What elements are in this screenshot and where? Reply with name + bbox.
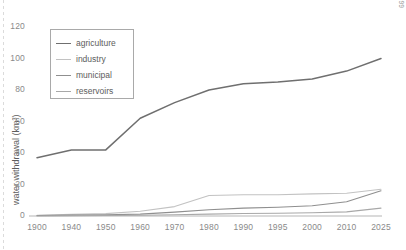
y-axis-title: water withdrawal (km³) [11, 114, 21, 205]
legend-line-swatch-agriculture [56, 43, 71, 44]
water-withdrawal-chart-figure: water withdrawal (km³) Source: Shikloman… [0, 0, 406, 250]
legend-line-swatch-reservoirs [56, 91, 71, 92]
legend-item-agriculture: agriculture [56, 35, 133, 51]
legend-item-municipal: municipal [56, 67, 133, 83]
legend-label-municipal: municipal [76, 71, 112, 80]
legend-label-industry: industry [76, 55, 106, 64]
y-tick-label-80: 80 [0, 84, 25, 94]
y-tick-label-0: 0 [0, 210, 25, 220]
y-tick-label-40: 40 [0, 147, 25, 157]
chart-legend: agricultureindustrymunicipalreservoirs [50, 29, 134, 99]
y-tick-label-120: 120 [0, 21, 25, 31]
legend-line-swatch-industry [56, 59, 71, 60]
y-tick-label-20: 20 [0, 179, 25, 189]
y-tick-label-60: 60 [0, 116, 25, 126]
y-tick-label-100: 100 [0, 53, 25, 63]
source-attribution: Source: Shiklomanov 1999 [398, 0, 405, 8]
legend-item-industry: industry [56, 51, 133, 67]
series-line-municipal [37, 191, 381, 216]
legend-label-reservoirs: reservoirs [76, 87, 113, 96]
legend-item-reservoirs: reservoirs [56, 83, 133, 99]
series-line-industry [37, 189, 381, 215]
legend-line-swatch-municipal [56, 75, 71, 76]
legend-label-agriculture: agriculture [76, 39, 116, 48]
x-tick-label-2025: 2025 [361, 222, 401, 232]
